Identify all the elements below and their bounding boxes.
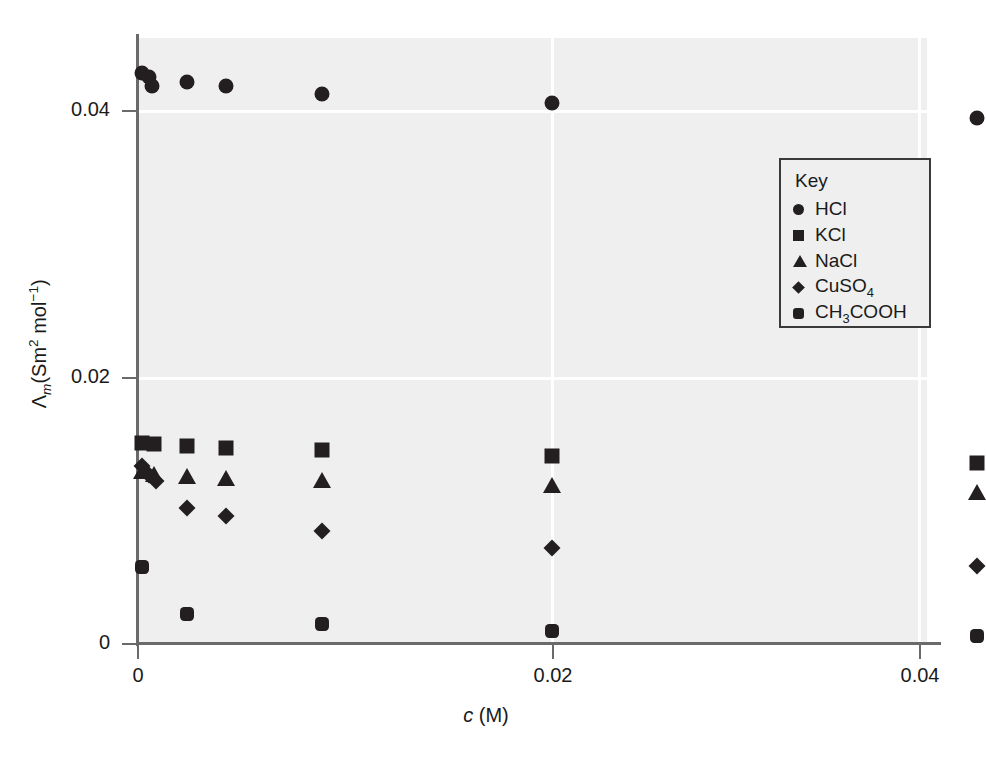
y-tick-0	[122, 643, 136, 645]
legend-label-cuso4-sub: 4	[867, 284, 874, 299]
datapoint-hcl	[144, 79, 159, 94]
diamond-marker-icon	[793, 283, 815, 292]
datapoint-ch3cooh	[315, 617, 329, 631]
datapoint-kcl	[970, 456, 985, 471]
legend-label-ch3cooh-sub: 3	[842, 310, 849, 325]
x-title-c: c	[463, 704, 473, 726]
y-title-sup-neg1: −1	[26, 286, 41, 302]
legend-title: Key	[795, 170, 929, 192]
x-axis-line	[136, 642, 941, 645]
x-ticklabel-0.04: 0.04	[875, 664, 965, 687]
x-ticklabel-0.02: 0.02	[508, 664, 598, 687]
gridline-x-0.04	[918, 38, 921, 643]
legend-item-ch3cooh[interactable]: CH3COOH	[793, 300, 929, 326]
legend-label-kcl: KCl	[815, 224, 846, 246]
datapoint-hcl	[970, 110, 985, 125]
datapoint-kcl	[545, 449, 560, 464]
hexagon-marker-icon	[793, 308, 815, 319]
datapoint-kcl	[179, 439, 194, 454]
y-ticklabel-0.04: 0.04	[40, 98, 110, 121]
plot-area	[137, 38, 927, 643]
datapoint-hcl	[314, 87, 329, 102]
legend-label-hcl: HCl	[815, 198, 847, 220]
datapoint-nacl	[968, 484, 986, 500]
y-tick-0.02	[122, 377, 136, 379]
datapoint-ch3cooh	[970, 629, 984, 643]
datapoint-nacl	[178, 468, 196, 484]
datapoint-cuso4	[969, 557, 986, 574]
legend-label-cuso4-text: CuSO	[815, 275, 867, 296]
legend-item-nacl[interactable]: NaCl	[793, 248, 929, 274]
x-axis-title: c (M)	[0, 704, 972, 727]
x-tick-0.02	[552, 645, 554, 659]
datapoint-hcl	[219, 79, 234, 94]
x-tick-0	[137, 645, 139, 659]
legend-item-kcl[interactable]: KCl	[793, 222, 929, 248]
datapoint-kcl	[314, 443, 329, 458]
legend-label-ch3cooh-pre: CH	[815, 301, 842, 322]
datapoint-hcl	[179, 75, 194, 90]
y-ticklabel-0: 0	[40, 631, 110, 654]
legend-item-hcl[interactable]: HCl	[793, 196, 929, 222]
y-title-close: )	[28, 279, 50, 286]
y-axis-line	[136, 34, 139, 646]
y-axis-title: Λm(Sm2 mol−1)	[26, 154, 54, 534]
legend-box: Key HCl KCl NaCl CuSO4 CH3COOH	[779, 158, 931, 328]
legend-item-cuso4[interactable]: CuSO4	[793, 274, 929, 300]
gridline-y-0.04	[137, 110, 927, 113]
triangle-marker-icon	[793, 255, 815, 267]
y-title-open: (Sm	[28, 347, 50, 384]
y-title-sup-2: 2	[26, 339, 41, 347]
x-ticklabel-0: 0	[93, 664, 183, 687]
y-title-sub-m: m	[39, 384, 54, 395]
legend-label-ch3cooh: CH3COOH	[815, 301, 907, 326]
datapoint-hcl	[545, 96, 560, 111]
datapoint-nacl	[543, 477, 561, 493]
datapoint-ch3cooh	[180, 607, 194, 621]
datapoint-ch3cooh	[545, 624, 559, 638]
datapoint-kcl	[146, 436, 161, 451]
y-title-mol: mol	[28, 302, 50, 340]
datapoint-nacl	[217, 470, 235, 486]
datapoint-nacl	[313, 472, 331, 488]
gridline-y-0.02	[137, 377, 927, 380]
circle-marker-icon	[793, 204, 815, 215]
datapoint-ch3cooh	[135, 560, 149, 574]
x-tick-0.04	[919, 645, 921, 659]
legend-label-cuso4: CuSO4	[815, 275, 874, 300]
legend-label-ch3cooh-post: COOH	[850, 301, 907, 322]
legend-label-nacl: NaCl	[815, 250, 857, 272]
y-tick-0.04	[122, 110, 136, 112]
y-title-lambda: Λ	[28, 395, 50, 408]
datapoint-kcl	[219, 441, 234, 456]
square-marker-icon	[793, 230, 815, 241]
x-title-unit: (M)	[473, 704, 509, 726]
